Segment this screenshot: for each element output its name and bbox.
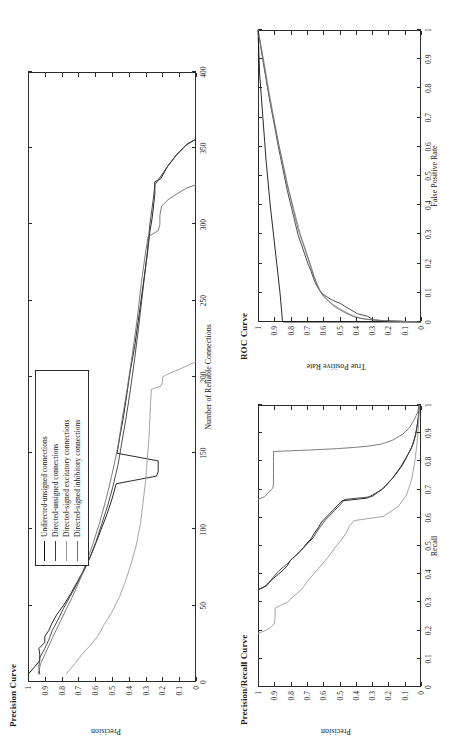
y-axis-tick-label: 0	[192, 686, 201, 708]
y-axis-tick	[28, 677, 29, 681]
x-axis-tick	[192, 300, 196, 301]
legend-item[interactable]: Directed-signed inhibitory connections	[72, 375, 83, 561]
x-axis-tick-label: 1	[424, 403, 433, 407]
y-axis-tick-label: 0.5	[335, 326, 344, 348]
y-axis-tick	[307, 317, 308, 321]
x-axis-tick-top	[258, 404, 262, 405]
y-axis-tick	[45, 677, 46, 681]
y-axis-tick-label: 0.8	[286, 326, 295, 348]
y-axis-tick-right	[372, 31, 373, 35]
y-axis-tick-label: 0.5	[335, 691, 344, 713]
x-axis-tick-top	[258, 87, 262, 88]
x-axis-tick-top	[258, 686, 262, 687]
y-axis-tick	[372, 317, 373, 321]
data-series-line	[258, 30, 421, 322]
y-axis-tick	[95, 677, 96, 681]
y-axis-tick-right	[323, 31, 324, 35]
y-axis-tick	[323, 682, 324, 686]
x-axis-tick-top	[258, 545, 262, 546]
x-axis-tick	[417, 601, 421, 602]
x-axis-tick-top	[28, 529, 32, 530]
x-axis-tick-top	[258, 117, 262, 118]
y-axis-tick-right	[356, 406, 357, 410]
y-axis-tick-label: 0.1	[400, 691, 409, 713]
y-axis-tick-label: 0.4	[351, 326, 360, 348]
x-axis-tick	[417, 630, 421, 631]
y-axis-tick-right	[356, 31, 357, 35]
y-axis-tick-label: 0.2	[384, 326, 393, 348]
data-series-line	[258, 30, 421, 322]
x-axis-tick	[417, 517, 421, 518]
precision-recall-xaxis-title: Recall	[430, 536, 439, 556]
x-axis-tick	[417, 686, 421, 687]
data-series-line	[258, 30, 421, 322]
legend-item-label: Directed-signed excitatory connections	[62, 420, 72, 537]
x-axis-tick-label: 0.2	[424, 626, 433, 635]
x-axis-tick	[417, 432, 421, 433]
y-axis-tick-right	[112, 73, 113, 77]
precision-recall-yaxis-title: Precision	[321, 727, 351, 736]
x-axis-tick-label: 0.3	[424, 598, 433, 607]
x-axis-tick-top	[258, 517, 262, 518]
x-axis-tick-top	[258, 204, 262, 205]
legend-item-label: Undirected-unsigned connections	[40, 436, 50, 537]
y-axis-tick	[405, 317, 406, 321]
x-axis-tick-label: 250	[199, 295, 208, 306]
x-axis-tick-label: 300	[199, 219, 208, 230]
x-axis-tick-top	[28, 681, 32, 682]
y-axis-tick-right	[291, 31, 292, 35]
x-axis-tick-top	[28, 300, 32, 301]
x-axis-tick-label: 0.7	[424, 113, 433, 122]
y-axis-tick	[388, 682, 389, 686]
y-axis-tick-label: 0.8	[57, 686, 66, 708]
y-axis-tick	[258, 317, 259, 321]
y-axis-tick-label: 1	[24, 686, 33, 708]
x-axis-tick	[192, 376, 196, 377]
y-axis-tick-label: 0.5	[108, 686, 117, 708]
panel-precision-recall-curve: Precision/Recall Curve 00.10.20.30.40.50…	[236, 387, 448, 737]
y-axis-tick	[405, 682, 406, 686]
y-axis-tick	[179, 677, 180, 681]
x-axis-tick-label: 350	[199, 143, 208, 154]
y-axis-tick-right	[196, 73, 197, 77]
x-axis-tick	[417, 404, 421, 405]
y-axis-tick-label: 0.9	[270, 691, 279, 713]
x-axis-tick-label: 0	[424, 685, 433, 689]
x-axis-tick-label: 0.7	[424, 485, 433, 494]
y-axis-tick-label: 0.3	[368, 691, 377, 713]
y-axis-tick-label: 0.9	[40, 686, 49, 708]
x-axis-tick-top	[258, 489, 262, 490]
x-axis-tick	[417, 87, 421, 88]
precision-curve-xaxis-title: Number of Reliable Connections	[204, 324, 213, 430]
y-axis-tick-label: 0.7	[302, 326, 311, 348]
roc-curve-yaxis-title: True Positive Rate	[306, 362, 365, 371]
x-axis-tick	[192, 681, 196, 682]
y-axis-tick-right	[95, 73, 96, 77]
y-axis-tick-label: 0.9	[270, 326, 279, 348]
legend-swatch-icon	[66, 541, 67, 561]
precision-curve-yaxis-title: Precision	[91, 727, 121, 736]
x-axis-tick-top	[258, 58, 262, 59]
x-axis-tick-top	[258, 658, 262, 659]
x-axis-tick	[417, 263, 421, 264]
y-axis-tick-label: 0	[417, 691, 426, 713]
y-axis-tick	[421, 682, 422, 686]
y-axis-tick-label: 0.7	[302, 691, 311, 713]
y-axis-tick-right	[421, 406, 422, 410]
y-axis-tick	[291, 682, 292, 686]
y-axis-tick-right	[146, 73, 147, 77]
y-axis-tick-label: 0.6	[319, 691, 328, 713]
legend-item[interactable]: Directed-signed excitatory connections	[61, 375, 72, 561]
x-axis-tick-label: 1	[424, 28, 433, 32]
legend-item[interactable]: Undirected-unsigned connections	[39, 375, 50, 561]
x-axis-tick-label: 0.1	[424, 288, 433, 297]
y-axis-tick-right	[307, 406, 308, 410]
y-axis-tick-label: 0	[417, 326, 426, 348]
y-axis-tick-right	[421, 31, 422, 35]
x-axis-tick	[417, 233, 421, 234]
x-axis-tick	[417, 460, 421, 461]
x-axis-tick	[417, 489, 421, 490]
y-axis-tick-right	[274, 31, 275, 35]
legend-item[interactable]: Directed-unsigned connections	[50, 375, 61, 561]
x-axis-tick-label: 0.2	[424, 259, 433, 268]
